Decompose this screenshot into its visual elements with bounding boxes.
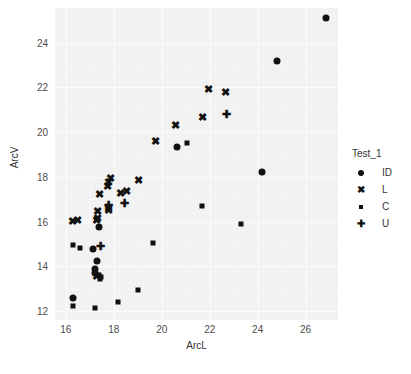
y-axis-title: ArcV	[9, 128, 20, 188]
grid-line-vertical	[306, 8, 307, 320]
data-point-L: ✖	[105, 172, 117, 184]
x-tick-label: 24	[252, 324, 263, 335]
grid-line-horizontal	[55, 87, 338, 88]
legend-item-L[interactable]: ✖L	[352, 181, 410, 198]
grid-line-vertical	[210, 8, 211, 320]
legend-items: ID✖LC✚U	[352, 164, 410, 232]
x-axis-title: ArcL	[55, 340, 338, 351]
data-point-L: ✖	[170, 119, 182, 131]
data-point-L: ✖	[91, 214, 103, 226]
y-tick-label: 14	[22, 261, 48, 272]
grid-line-horizontal	[55, 289, 338, 290]
grid-line-vertical	[282, 8, 283, 320]
y-tick-label: 24	[22, 37, 48, 48]
x-tick-label: 18	[108, 324, 119, 335]
data-point-C	[92, 306, 97, 311]
data-point-L: ✖	[202, 83, 214, 95]
data-point-C	[184, 141, 189, 146]
legend-label: ID	[382, 167, 392, 178]
x-tick-label: 22	[204, 324, 215, 335]
data-point-L: ✖	[120, 185, 132, 197]
data-point-ID	[258, 168, 265, 175]
data-point-L: ✖	[132, 174, 144, 186]
data-point-ID	[273, 57, 280, 64]
legend-marker-square-icon	[352, 198, 370, 215]
grid-line-horizontal	[55, 311, 338, 312]
data-point-ID	[93, 258, 100, 265]
data-point-U: ✚	[95, 240, 107, 252]
data-point-C	[116, 299, 121, 304]
legend-label: L	[382, 184, 388, 195]
data-point-C	[71, 304, 76, 309]
data-point-C	[136, 288, 141, 293]
grid-line-horizontal	[55, 43, 338, 44]
y-tick-label: 12	[22, 306, 48, 317]
y-tick-label: 22	[22, 82, 48, 93]
data-point-C	[151, 240, 156, 245]
legend-marker-x-icon: ✖	[352, 181, 370, 198]
y-tick-label: 16	[22, 216, 48, 227]
grid-line-vertical	[66, 8, 67, 320]
legend-marker-circle-icon	[352, 164, 370, 181]
data-point-U: ✚	[119, 197, 131, 209]
grid-line-horizontal	[55, 177, 338, 178]
legend: Test_1 ID✖LC✚U	[352, 148, 410, 232]
legend-item-C[interactable]: C	[352, 198, 410, 215]
y-tick-label: 20	[22, 127, 48, 138]
data-point-ID	[173, 144, 180, 151]
data-point-U: ✚	[102, 199, 114, 211]
legend-marker-plus-icon: ✚	[352, 215, 370, 232]
grid-line-horizontal	[55, 132, 338, 133]
legend-label: C	[382, 201, 389, 212]
grid-line-vertical	[138, 8, 139, 320]
data-point-ID	[70, 295, 77, 302]
scatter-chart: ✖✖✖✖✖✖✖✖✖✖✖✖✖✖✖✖✖✖✖✖✚✚✚✚ 12141618202224 …	[0, 0, 411, 374]
grid-line-horizontal	[55, 154, 338, 155]
legend-item-U[interactable]: ✚U	[352, 215, 410, 232]
plot-panel: ✖✖✖✖✖✖✖✖✖✖✖✖✖✖✖✖✖✖✖✖✚✚✚✚	[55, 8, 338, 320]
legend-item-ID[interactable]: ID	[352, 164, 410, 181]
grid-line-vertical	[114, 8, 115, 320]
data-point-C	[70, 243, 75, 248]
data-point-ID	[323, 14, 330, 21]
grid-line-vertical	[162, 8, 163, 320]
x-tick-label: 26	[300, 324, 311, 335]
grid-line-vertical	[258, 8, 259, 320]
data-point-C	[200, 204, 205, 209]
data-point-C	[99, 275, 104, 280]
grid-line-vertical	[186, 8, 187, 320]
x-tick-label: 16	[60, 324, 71, 335]
data-point-C	[78, 245, 83, 250]
data-point-L: ✖	[220, 86, 232, 98]
data-point-L: ✖	[71, 214, 83, 226]
y-tick-label: 18	[22, 171, 48, 182]
data-point-L: ✖	[149, 135, 161, 147]
legend-label: U	[382, 218, 389, 229]
data-point-U: ✚	[221, 108, 233, 120]
legend-title: Test_1	[352, 148, 410, 159]
grid-line-vertical	[234, 8, 235, 320]
data-point-C	[239, 222, 244, 227]
y-axis-tick-labels: 12141618202224	[20, 0, 48, 374]
grid-line-horizontal	[55, 65, 338, 66]
x-tick-label: 20	[156, 324, 167, 335]
data-point-L: ✖	[197, 111, 209, 123]
